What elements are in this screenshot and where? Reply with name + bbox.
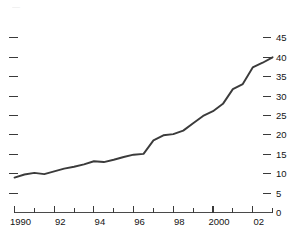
right-axis-tick-label: 5 (276, 188, 281, 199)
x-axis-tick-label: 1990 (10, 216, 31, 227)
x-axis-tick-label: 96 (134, 216, 145, 227)
data-series-line (15, 57, 273, 177)
right-axis-tick-label: 30 (276, 91, 287, 102)
left-axis-ticks (9, 38, 18, 193)
right-axis-tick-label: 20 (276, 129, 287, 140)
x-axis-tick-label: 2000 (208, 216, 229, 227)
right-axis-tick-label: 35 (276, 71, 287, 82)
line-chart: — 454035302520151050 199092949698200002 (0, 0, 305, 242)
x-axis (15, 206, 273, 213)
right-axis-tick-label: 0 (276, 207, 281, 218)
right-axis-tick-label: 10 (276, 168, 287, 179)
right-axis-tick-label: 40 (276, 52, 287, 63)
x-axis-tick-label: 02 (253, 216, 264, 227)
x-axis-tick-label: 98 (174, 216, 185, 227)
chart-canvas: 454035302520151050 199092949698200002 (0, 0, 305, 242)
right-axis-tick-label: 15 (276, 149, 287, 160)
x-axis-tick-labels: 199092949698200002 (10, 216, 264, 227)
x-axis-tick-label: 92 (55, 216, 66, 227)
x-axis-tick-label: 94 (95, 216, 106, 227)
right-axis-tick-labels: 454035302520151050 (276, 32, 287, 218)
right-axis-tick-label: 25 (276, 110, 287, 121)
right-axis-tick-label: 45 (276, 32, 287, 43)
